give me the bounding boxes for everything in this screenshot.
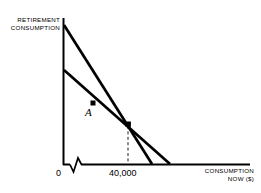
flatter-budget-line	[64, 70, 170, 164]
steeper-budget-line	[64, 25, 152, 164]
x-tick-label-origin: 0	[56, 168, 61, 178]
x-axis-title-line2: NOW ($)	[188, 175, 254, 183]
x-axis-title-line1: CONSUMPTION	[188, 167, 254, 175]
x-axis-break-icon	[70, 158, 82, 172]
y-axis-title: RETIREMENT CONSUMPTION	[8, 16, 60, 32]
x-axis-title: CONSUMPTION NOW ($)	[188, 167, 254, 183]
point-a-label: A	[85, 106, 92, 118]
x-tick-label-40000: 40,000	[109, 168, 137, 178]
intersection-marker	[126, 122, 131, 127]
budget-constraint-chart: RETIREMENT CONSUMPTION CONSUMPTION NOW (…	[0, 0, 261, 193]
y-axis-title-line1: RETIREMENT	[8, 16, 60, 24]
point-a-marker	[91, 101, 96, 106]
y-axis-title-line2: CONSUMPTION	[8, 24, 60, 32]
